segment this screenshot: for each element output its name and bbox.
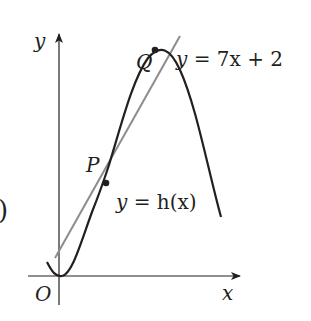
point-p-marker bbox=[103, 180, 110, 187]
curve-equation-lhs: y bbox=[115, 190, 128, 214]
line-equation-label: y = 7x + 2 bbox=[175, 47, 283, 71]
left-edge-fragment: ) bbox=[0, 195, 8, 225]
point-q-label: Q bbox=[136, 50, 152, 74]
origin-label: O bbox=[35, 282, 51, 306]
line-equation-rhs: = 7x + 2 bbox=[187, 47, 283, 71]
point-q-marker bbox=[152, 47, 159, 54]
x-axis-label: x bbox=[222, 281, 233, 305]
y-axis-label: y bbox=[33, 29, 46, 53]
point-p-label: P bbox=[85, 153, 100, 177]
diagram-canvas: ) y x O P Q y = 7x + 2 y = h(x) bbox=[0, 0, 311, 321]
curve-h-of-x bbox=[47, 50, 221, 276]
line-y-7x-plus-2 bbox=[55, 36, 180, 258]
curve-equation-label: y = h(x) bbox=[115, 190, 197, 214]
curve-equation-rhs: = h(x) bbox=[127, 190, 196, 214]
line-equation-lhs: y bbox=[175, 47, 188, 71]
